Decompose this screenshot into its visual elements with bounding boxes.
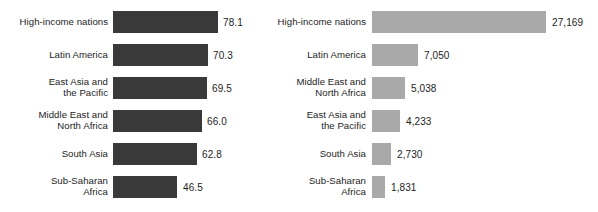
bar-value-label: 66.0 [207,110,227,132]
chart-row: Sub-Saharan Africa 1,831 [270,173,598,201]
chart-row: Sub-Saharan Africa 46.5 [0,173,270,201]
bar [113,176,177,198]
bar [372,77,405,99]
chart-row: High-income nations 78.1 [0,8,270,36]
bar-value-label: 1,831 [391,176,417,198]
bar [372,44,418,66]
category-label: South Asia [274,149,366,160]
bar-value-label: 70.3 [213,44,233,66]
right-bar-chart-panel: High-income nations 27,169 Latin America… [270,0,598,212]
bar-value-label: 2,730 [397,143,423,165]
dual-bar-chart-figure: High-income nations 78.1 Latin America 7… [0,0,598,212]
chart-row: East Asia and the Pacific 69.5 [0,74,270,102]
bar-value-label: 69.5 [212,77,232,99]
bar [113,11,218,33]
category-label: Latin America [274,50,366,61]
bar [113,143,197,165]
bar-value-label: 46.5 [183,176,203,198]
bar-value-label: 7,050 [424,44,450,66]
bar-value-label: 27,169 [552,11,583,33]
bar [372,143,391,165]
category-label: Sub-Saharan Africa [274,176,366,197]
bar [113,44,208,66]
left-bar-chart-panel: High-income nations 78.1 Latin America 7… [0,0,270,212]
chart-row: South Asia 2,730 [270,140,598,168]
chart-row: South Asia 62.8 [0,140,270,168]
bar-value-label: 5,038 [411,77,437,99]
chart-row: Middle East and North Africa 66.0 [0,107,270,135]
category-label: East Asia and the Pacific [4,77,108,98]
category-label: Latin America [4,50,108,61]
category-label: Middle East and North Africa [4,110,108,131]
bar [372,11,546,33]
bar [113,110,202,132]
chart-row: High-income nations 27,169 [270,8,598,36]
category-label: Sub-Saharan Africa [4,176,108,197]
bar-value-label: 4,233 [406,110,432,132]
bar [372,176,385,198]
category-label: High-income nations [4,17,108,28]
bar-value-label: 62.8 [202,143,222,165]
category-label: East Asia and the Pacific [274,110,366,131]
bar [113,77,207,99]
bar [372,110,400,132]
category-label: South Asia [4,149,108,160]
bar-value-label: 78.1 [223,11,243,33]
chart-row: Middle East and North Africa 5,038 [270,74,598,102]
category-label: Middle East and North Africa [274,77,366,98]
category-label: High-income nations [274,17,366,28]
chart-row: Latin America 70.3 [0,41,270,69]
chart-row: East Asia and the Pacific 4,233 [270,107,598,135]
chart-row: Latin America 7,050 [270,41,598,69]
